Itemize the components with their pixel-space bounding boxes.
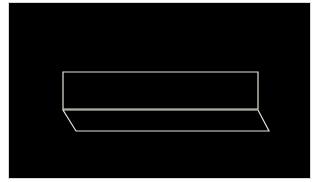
wireframe-drawing: [0, 0, 313, 182]
vertical-plane: [63, 72, 258, 109]
slanted-plane: [63, 110, 269, 131]
